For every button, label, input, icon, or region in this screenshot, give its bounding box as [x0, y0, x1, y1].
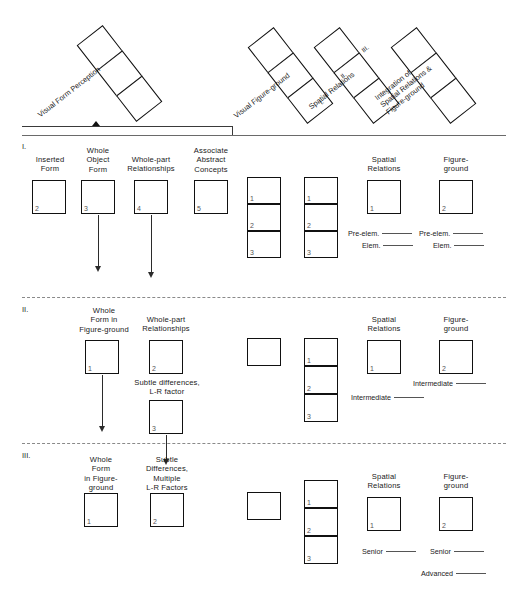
- bracket-pointer: [92, 121, 100, 126]
- arrow-whole-form-figure-ground-ii: [102, 375, 103, 427]
- box-figure-ground-iii: 2: [439, 497, 473, 531]
- level-label: Pre-elem.: [419, 229, 450, 238]
- bracket-rule: [22, 126, 233, 127]
- stack-cell: 2: [304, 366, 338, 394]
- box-number: 1: [250, 195, 254, 203]
- arrow-whole-part-relationships: [151, 215, 152, 273]
- level-label: Senior: [362, 547, 383, 556]
- level-elem-figure-i: Elem.: [433, 238, 484, 250]
- stack-cell: 3: [247, 231, 281, 258]
- section-numeral-ii: II.: [22, 305, 28, 314]
- box-number: 1: [370, 205, 374, 213]
- caption-associate-abstract-concepts: Associate Abstract Concepts: [180, 146, 242, 174]
- blank-line[interactable]: [382, 226, 412, 234]
- caption-figure-ground-ii: Figure- ground: [428, 315, 484, 334]
- section-divider-ii-iii: [22, 443, 506, 444]
- blank-line[interactable]: [453, 226, 483, 234]
- box-number: 4: [137, 205, 141, 213]
- level-intermediate-figure-ii: Intermediate: [413, 376, 486, 388]
- caption-whole-part-relationships-ii: Whole-part Relationships: [133, 315, 199, 334]
- box-number: 3: [307, 413, 311, 421]
- box-number: 1: [370, 365, 374, 373]
- box-subtle-differences-iii: 2: [150, 493, 184, 527]
- level-label: Pre-elem.: [348, 229, 379, 238]
- box-spatial-relations-ii: 1: [367, 340, 401, 374]
- box-whole-form-figure-ground-ii: 1: [85, 340, 119, 374]
- box-number: 3: [152, 425, 156, 433]
- level-senior-spatial-iii: Senior: [362, 544, 416, 556]
- bracket-tick: [232, 126, 233, 135]
- stack-cell: 1: [304, 480, 338, 508]
- stack-cell: 3: [304, 394, 338, 422]
- caption-figure-ground-i: Figure- ground: [428, 155, 484, 174]
- box-subtle-differences-ii: 3: [149, 400, 183, 434]
- box-number: 3: [307, 555, 311, 563]
- stack-cell: 3: [304, 231, 338, 258]
- box-number: 1: [87, 518, 91, 526]
- arrow-whole-object-form: [98, 215, 99, 267]
- section-numeral-i: I.: [22, 142, 26, 151]
- caption-whole-form-figure-ground-ii: Whole Form in Figure-ground: [68, 306, 140, 334]
- blank-line[interactable]: [454, 238, 484, 246]
- blank-line[interactable]: [394, 390, 424, 398]
- level-label: Elem.: [433, 241, 451, 250]
- box-number: 2: [307, 385, 311, 393]
- blank-line[interactable]: [454, 544, 484, 552]
- box-inserted-form: 2: [32, 180, 66, 214]
- box-number: 2: [153, 518, 157, 526]
- section-divider-i-ii: [22, 297, 506, 298]
- caption-subtle-differences-iii: Subtle Differences, Multiple L-R Factors: [134, 455, 200, 493]
- section-numeral-iii: III.: [22, 451, 30, 460]
- level-label: Senior: [430, 547, 451, 556]
- box-number: 2: [442, 205, 446, 213]
- blank-line[interactable]: [456, 376, 486, 384]
- blank-line[interactable]: [383, 238, 413, 246]
- stack-cell: [247, 492, 281, 520]
- blank-line[interactable]: [386, 544, 416, 552]
- stack-cell: 1: [304, 338, 338, 366]
- blank-line[interactable]: [456, 566, 486, 574]
- box-number: 3: [307, 249, 311, 257]
- caption-spatial-relations-i: Spatial Relations: [356, 155, 412, 174]
- level-label: Elem.: [362, 241, 380, 250]
- level-label: Intermediate: [351, 393, 391, 402]
- caption-figure-ground-iii: Figure- ground: [428, 472, 484, 491]
- box-number: 2: [442, 522, 446, 530]
- stack-cell: 3: [304, 536, 338, 564]
- level-label: Advanced: [421, 569, 453, 578]
- box-number: 1: [307, 195, 311, 203]
- box-number: 1: [370, 522, 374, 530]
- level-intermediate-spatial-ii: Intermediate: [351, 390, 424, 402]
- level-senior-figure-iii: Senior: [430, 544, 484, 556]
- level-pre-elem-spatial-i: Pre-elem.: [348, 226, 412, 238]
- box-number: 1: [307, 357, 311, 365]
- tower-numeral-iii: III.: [360, 44, 370, 54]
- box-whole-object-form: 3: [81, 180, 115, 214]
- box-whole-part-relationships: 4: [134, 180, 168, 214]
- box-number: 2: [152, 365, 156, 373]
- box-figure-ground-i: 2: [439, 180, 473, 214]
- box-number: 1: [307, 499, 311, 507]
- box-whole-form-figure-ground-iii: 1: [84, 493, 118, 527]
- caption-whole-part-relationships: Whole-part Relationships: [118, 155, 184, 174]
- diagram-canvas: Visual Form Perception Visual Figure-gro…: [0, 0, 519, 602]
- box-spatial-relations-i: 1: [367, 180, 401, 214]
- caption-spatial-relations-iii: Spatial Relations: [356, 472, 412, 491]
- box-figure-ground-ii: 2: [439, 340, 473, 374]
- box-number: 5: [197, 205, 201, 213]
- box-number: 2: [307, 222, 311, 230]
- box-number: 2: [442, 365, 446, 373]
- box-number: 2: [307, 527, 311, 535]
- stack-cell: 1: [304, 177, 338, 204]
- stack-cell: [247, 338, 281, 366]
- box-spatial-relations-iii: 1: [367, 497, 401, 531]
- level-advanced-figure-iii: Advanced: [421, 566, 486, 578]
- level-pre-elem-figure-i: Pre-elem.: [419, 226, 483, 238]
- stack-cell: 1: [247, 177, 281, 204]
- box-whole-part-relationships-ii: 2: [149, 340, 183, 374]
- box-number: 1: [88, 365, 92, 373]
- box-number: 2: [35, 205, 39, 213]
- box-associate-abstract-concepts: 5: [194, 180, 228, 214]
- box-number: 3: [84, 205, 88, 213]
- level-elem-spatial-i: Elem.: [362, 238, 413, 250]
